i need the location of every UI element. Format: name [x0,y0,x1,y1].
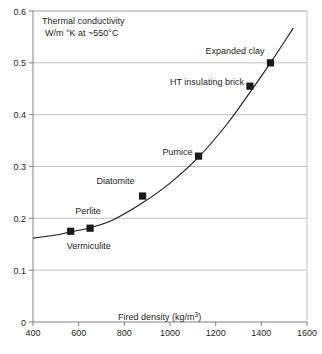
y-tick-label: 0.6 [13,7,26,17]
data-marker [246,83,253,90]
x-tick-label: 600 [71,328,86,338]
data-marker [267,59,274,66]
data-point-label: Diatomite [97,176,135,186]
y-tick-label: 0.2 [13,214,26,224]
data-marker [86,225,93,232]
data-point-label: Vermiculite [67,241,111,251]
x-tick-label: 1000 [160,328,180,338]
y-tick-label: 0.1 [13,266,26,276]
y-axis-ticks: 00.10.20.30.40.50.6 [13,7,33,328]
data-point-label: HT insulating brick [170,77,244,87]
data-point-label: Perlite [75,206,101,216]
data-point-labels: VermiculitePerliteDiatomitePumiceHT insu… [67,46,265,251]
y-tick-label: 0 [21,318,26,328]
x-tick-label: 1600 [297,328,317,338]
data-point-label: Expanded clay [205,46,265,56]
x-tick-label: 800 [117,328,132,338]
x-axis-title-close: ) [198,312,201,322]
chart-annotation-line1: Thermal conductivity [42,16,125,26]
data-marker [67,228,74,235]
chart-annotation-line2: W/m °K at ~550°C [45,28,119,38]
x-tick-label: 400 [25,328,40,338]
y-tick-label: 0.3 [13,162,26,172]
data-point-label: Pumice [163,147,193,157]
y-tick-label: 0.5 [13,58,26,68]
x-axis-title-main: Fired density (kg/m [118,312,195,322]
chart-canvas: 4006008001000120014001600 00.10.20.30.40… [0,0,322,354]
trend-curve [33,28,293,238]
thermal-conductivity-chart: 4006008001000120014001600 00.10.20.30.40… [0,0,322,354]
x-axis-ticks: 4006008001000120014001600 [25,322,317,338]
x-tick-label: 1200 [206,328,226,338]
curve-path [33,28,293,238]
data-marker [195,153,202,160]
x-axis-title: Fired density (kg/m3) [118,311,201,323]
data-marker [139,192,146,199]
y-tick-label: 0.4 [13,110,26,120]
x-tick-label: 1400 [251,328,271,338]
